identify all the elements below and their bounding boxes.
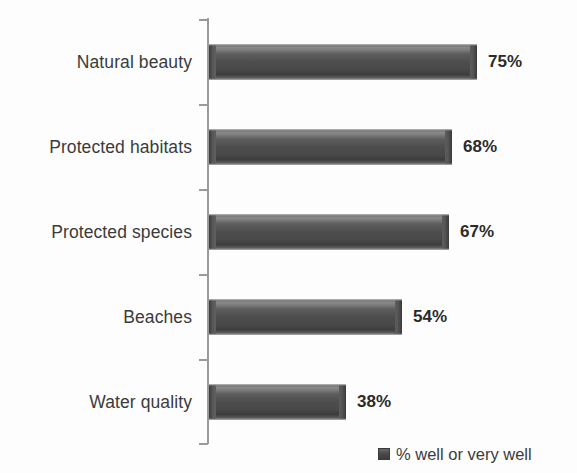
bar[interactable] [209,214,449,249]
bar-row: Natural beauty 75% [0,19,577,104]
bar-group: 38% [209,384,391,419]
bar-chart: Natural beauty 75% Protected habitats 68… [0,0,577,473]
bar[interactable] [209,129,452,164]
bar[interactable] [209,299,402,334]
bar[interactable] [209,384,346,419]
bar-value-label: 67% [460,222,494,242]
category-label: Water quality [89,391,192,412]
category-label: Natural beauty [77,51,192,72]
bar-value-label: 54% [413,307,447,327]
legend-label: % well or very well [396,445,532,464]
bar-row: Protected species 67% [0,189,577,274]
bar[interactable] [209,44,477,79]
bar-group: 75% [209,44,522,79]
bar-value-label: 38% [357,392,391,412]
category-label: Protected species [51,221,192,242]
bar-row: Protected habitats 68% [0,104,577,189]
bar-row: Beaches 54% [0,274,577,359]
category-label: Beaches [123,306,192,327]
bar-group: 67% [209,214,494,249]
bar-group: 68% [209,129,497,164]
bar-group: 54% [209,299,447,334]
category-label: Protected habitats [49,136,192,157]
chart-legend: % well or very well [378,443,532,465]
bar-row: Water quality 38% [0,359,577,444]
legend-swatch-icon [378,448,390,460]
bar-value-label: 68% [463,137,497,157]
bar-value-label: 75% [488,52,522,72]
plot-area: Natural beauty 75% Protected habitats 68… [0,0,577,473]
